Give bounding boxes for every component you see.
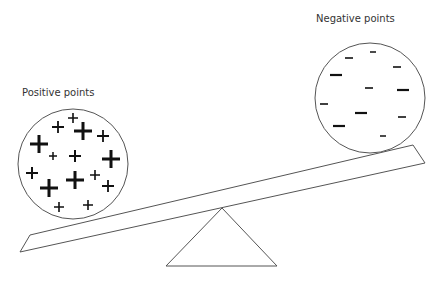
- seesaw-diagram: Positive points Negative points: [0, 0, 440, 282]
- negative-points-circle: [315, 43, 425, 153]
- positive-points-label: Positive points: [22, 87, 94, 98]
- negative-points-label: Negative points: [316, 13, 395, 24]
